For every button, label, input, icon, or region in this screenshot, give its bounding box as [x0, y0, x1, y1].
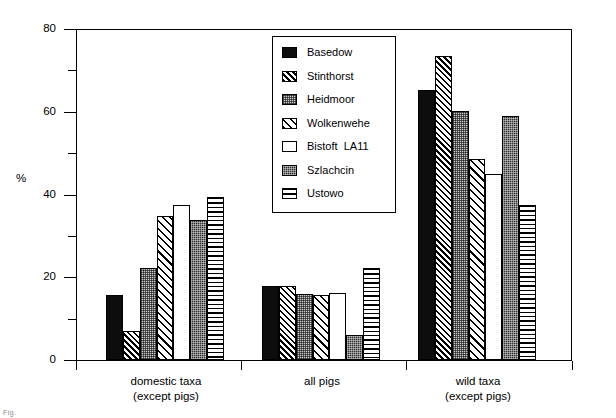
x-tick-0	[76, 361, 77, 370]
bar-group	[418, 29, 536, 360]
x-tick-2	[406, 361, 407, 370]
legend-label: Szlachcin	[307, 163, 354, 177]
x-group-label-line1: domestic taxa	[91, 374, 241, 389]
y-tick-major-40	[64, 195, 76, 196]
x-tick-1	[241, 361, 242, 370]
bar	[329, 293, 346, 360]
y-tick-major-80	[64, 29, 76, 30]
bar	[485, 174, 502, 360]
bar	[346, 335, 363, 360]
legend-swatch	[282, 118, 297, 129]
legend-item: Stinthorst	[273, 67, 395, 91]
legend-item: Basedow	[273, 43, 395, 67]
legend-label: Heidmoor	[307, 92, 355, 106]
legend-box: BasedowStinthorstHeidmoorWolkenweheBisto…	[272, 36, 396, 213]
bar	[435, 56, 452, 360]
x-group-label: all pigs	[247, 374, 397, 389]
bar	[519, 205, 536, 360]
y-tick-label-60: 60	[26, 106, 56, 118]
x-group-label-line2: (except pigs)	[91, 389, 241, 404]
y-tick-minor-70	[68, 70, 76, 71]
x-group-label-line2: (except pigs)	[403, 389, 553, 404]
bar	[140, 268, 157, 360]
legend-swatch	[282, 71, 297, 82]
legend-item: Heidmoor	[273, 90, 395, 114]
y-tick-major-0	[64, 360, 76, 361]
legend-swatch	[282, 188, 297, 199]
legend-label: Basedow	[307, 45, 352, 59]
bar	[123, 331, 140, 360]
bar	[363, 268, 380, 360]
x-group-label-line1: all pigs	[247, 374, 397, 389]
x-group-label: wild taxa(except pigs)	[403, 374, 553, 404]
legend-item: Ustowo	[273, 184, 395, 208]
bar	[106, 295, 123, 360]
legend-swatch	[282, 165, 297, 176]
legend-item: Szlachcin	[273, 161, 395, 185]
x-group-label-line1: wild taxa	[403, 374, 553, 389]
legend-swatch	[282, 47, 297, 58]
bar	[279, 286, 296, 360]
bar	[262, 286, 279, 360]
bar	[157, 216, 174, 360]
caption-fragment: Fig.	[3, 409, 17, 416]
bar	[207, 197, 224, 360]
legend-item: Bistoft LA11	[273, 137, 395, 161]
legend-label: Wolkenwehe	[307, 116, 370, 130]
legend-label: Ustowo	[307, 186, 344, 200]
y-tick-minor-10	[68, 319, 76, 320]
legend-swatch	[282, 94, 297, 105]
bar	[418, 90, 435, 360]
legend-label: Bistoft LA11	[307, 139, 369, 153]
x-group-label: domestic taxa(except pigs)	[91, 374, 241, 404]
y-tick-minor-30	[68, 236, 76, 237]
y-tick-major-20	[64, 277, 76, 278]
legend-swatch	[282, 141, 297, 152]
chart-canvas: % 020406080 domestic taxa(except pigs)al…	[0, 0, 616, 418]
bar	[469, 159, 486, 360]
bar	[502, 116, 519, 360]
bar	[313, 295, 330, 360]
y-tick-label-40: 40	[26, 189, 56, 201]
bar	[173, 205, 190, 360]
y-tick-label-20: 20	[26, 271, 56, 283]
bar	[296, 294, 313, 360]
legend-item: Wolkenwehe	[273, 114, 395, 138]
bar-group	[106, 29, 224, 360]
y-tick-label-80: 80	[26, 23, 56, 35]
y-tick-major-60	[64, 112, 76, 113]
y-axis-title: %	[16, 172, 26, 184]
bar	[452, 111, 469, 360]
y-tick-label-0: 0	[26, 354, 56, 366]
x-tick-3	[572, 361, 573, 370]
legend-label: Stinthorst	[307, 69, 353, 83]
y-tick-minor-50	[68, 153, 76, 154]
bar	[190, 220, 207, 360]
